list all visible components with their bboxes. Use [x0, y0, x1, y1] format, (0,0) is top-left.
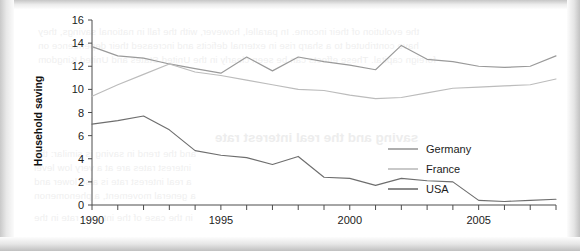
page-edge-bottom [0, 237, 580, 251]
chart-legend: GermanyFranceUSA [388, 143, 472, 195]
page-edge-right [567, 0, 580, 251]
y-axis-ticks [88, 20, 92, 205]
legend-label-germany: Germany [426, 143, 472, 155]
chart-series-lines [92, 45, 556, 201]
series-line-france [92, 64, 556, 99]
x-axis-ticks [92, 205, 556, 210]
page-background: the evolution of their income. In parall… [0, 0, 580, 251]
series-line-usa [92, 116, 556, 202]
x-tick-label: 2005 [466, 214, 490, 226]
y-tick-label: 2 [78, 176, 84, 188]
y-axis-title: Household saving [32, 76, 44, 166]
y-tick-label: 6 [78, 130, 84, 142]
y-tick-label: 0 [78, 199, 84, 211]
y-tick-label: 10 [72, 83, 84, 95]
page-edge-top [0, 0, 580, 9]
chart-svg: 0246810121416 1990199520002005 Household… [14, 9, 567, 237]
y-tick-label: 8 [78, 107, 84, 119]
legend-label-france: France [426, 163, 460, 175]
y-tick-label: 14 [72, 37, 84, 49]
series-line-germany [92, 45, 556, 73]
y-tick-label: 16 [72, 14, 84, 26]
y-tick-label: 4 [78, 153, 84, 165]
x-tick-label: 2000 [338, 214, 362, 226]
y-axis-tick-labels: 0246810121416 [72, 14, 84, 211]
x-axis-tick-labels: 1990199520002005 [80, 214, 491, 226]
legend-label-usa: USA [426, 183, 449, 195]
x-tick-label: 1995 [209, 214, 233, 226]
line-chart: 0246810121416 1990199520002005 Household… [14, 9, 567, 237]
y-tick-label: 12 [72, 60, 84, 72]
x-tick-label: 1990 [80, 214, 104, 226]
page-edge-left [0, 0, 14, 251]
